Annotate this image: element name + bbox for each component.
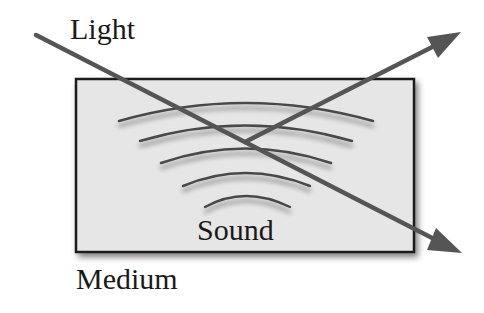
arrowhead-upper-right-icon xyxy=(427,32,461,58)
label-light: Light xyxy=(70,12,135,46)
label-medium: Medium xyxy=(76,262,178,296)
diagram-svg xyxy=(0,0,484,313)
label-sound: Sound xyxy=(197,213,274,247)
arrowhead-lower-right-icon xyxy=(427,228,462,253)
diagram-canvas: Light Sound Medium xyxy=(0,0,484,313)
